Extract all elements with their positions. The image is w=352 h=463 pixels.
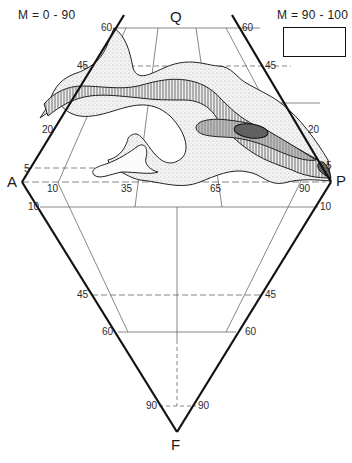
vertex-f: F: [171, 437, 180, 452]
tick-left-20: 20: [42, 125, 53, 135]
tick-base-10: 10: [47, 184, 58, 194]
tick-lower-right-60: 60: [245, 327, 256, 337]
tick-lower-left-10: 10: [28, 202, 39, 212]
tick-base-90: 90: [299, 184, 310, 194]
legend-title-right: M = 90 - 100: [277, 9, 348, 21]
lower-ratio-right: [226, 175, 304, 332]
tick-lower-left-90: 90: [146, 401, 157, 411]
tick-lower-right-45: 45: [265, 290, 276, 300]
tick-lower-left-45: 45: [77, 290, 88, 300]
tick-lower-right-10: 10: [320, 202, 331, 212]
legend-title-left: M = 0 - 90: [18, 9, 75, 21]
tick-base-35: 35: [121, 184, 132, 194]
tick-left-5: 5: [24, 164, 30, 174]
tick-base-65: 65: [210, 184, 221, 194]
edge-af: [22, 182, 177, 432]
vertex-q: Q: [170, 9, 182, 24]
tick-right-60: 60: [242, 23, 253, 33]
vertex-p: P: [336, 173, 346, 188]
vertex-a: A: [7, 174, 17, 189]
tick-left-45: 45: [77, 61, 88, 71]
tick-lower-right-90: 90: [198, 401, 209, 411]
tick-right-5: 5: [326, 161, 332, 171]
legend-box: [283, 27, 346, 57]
tick-right-20: 20: [308, 125, 319, 135]
edge-pf: [177, 182, 331, 432]
tick-left-60: 60: [101, 23, 112, 33]
qapf-diagram: [0, 0, 352, 463]
tick-right-45: 45: [265, 61, 276, 71]
tick-lower-left-60: 60: [102, 327, 113, 337]
